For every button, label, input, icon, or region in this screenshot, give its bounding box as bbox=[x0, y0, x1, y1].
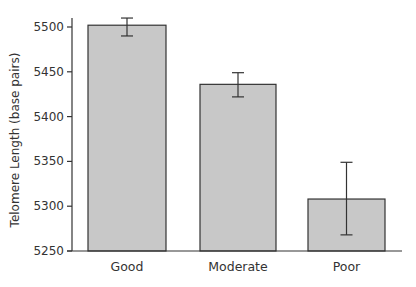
bar-good bbox=[88, 25, 166, 251]
y-tick-label: 5300 bbox=[33, 199, 64, 213]
bar-chart: GoodModeratePoor525053005350540054505500… bbox=[0, 0, 416, 287]
y-tick-label: 5450 bbox=[33, 65, 64, 79]
y-tick-label: 5350 bbox=[33, 154, 64, 168]
x-tick-label: Good bbox=[111, 259, 144, 274]
x-tick-label: Poor bbox=[333, 259, 361, 274]
y-tick-label: 5250 bbox=[33, 244, 64, 258]
x-tick-label: Moderate bbox=[208, 259, 268, 274]
bar-moderate bbox=[200, 84, 276, 251]
y-axis-title: Telomere Length (base pairs) bbox=[8, 53, 22, 229]
y-tick-label: 5500 bbox=[33, 20, 64, 34]
y-tick-label: 5400 bbox=[33, 110, 64, 124]
